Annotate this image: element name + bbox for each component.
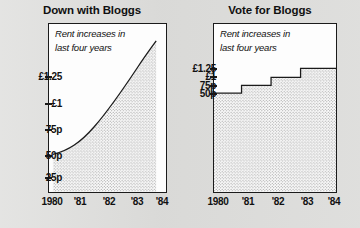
xtick-label-81-right: '81 [242, 196, 255, 207]
plot-area-left: Rent increases in last four years [48, 23, 167, 193]
ytick-label-25-left: 25p [16, 172, 62, 183]
ytick-label-50-left: 50p [16, 150, 62, 161]
xtick-label-83-right: '83 [301, 196, 314, 207]
ytick-label-75-left: 75p [16, 124, 62, 135]
xtick-label-82-right: '82 [272, 196, 285, 207]
chart-annotation-left: Rent increases in last four years [55, 27, 125, 54]
xtick-label-82-left: '82 [103, 196, 116, 207]
ytick-label-100-left: £1 [16, 98, 62, 109]
xtick-label-81-left: '81 [74, 196, 87, 207]
annotation-line-1: Rent increases in [55, 27, 125, 41]
xtick-label-84-right: '84 [328, 196, 341, 207]
plot-area-right: Rent increases in last four years [213, 23, 337, 193]
xtick-label-83-left: '83 [131, 196, 144, 207]
chart-down-with-bloggs: Down with Bloggs Rent increases in last … [0, 0, 180, 228]
ytick-label-50-right: 50p [176, 88, 216, 99]
step-fill-right [214, 68, 336, 192]
annotation-line-1: Rent increases in [220, 27, 290, 41]
xtick-label-84-left: '84 [156, 196, 169, 207]
xtick-label-1980-right: 1980 [207, 196, 228, 207]
annotation-line-2: last four years [220, 41, 290, 55]
ytick-label-125-left: £1.25 [16, 71, 62, 82]
chart-title-right: Vote for Bloggs [180, 4, 360, 16]
chart-title-left: Down with Bloggs [2, 4, 182, 16]
xtick-label-1980-left: 1980 [41, 196, 62, 207]
chart-vote-for-bloggs: Vote for Bloggs Rent increases in last f… [180, 0, 360, 228]
annotation-line-2: last four years [55, 41, 125, 55]
chart-annotation-right: Rent increases in last four years [220, 27, 290, 54]
